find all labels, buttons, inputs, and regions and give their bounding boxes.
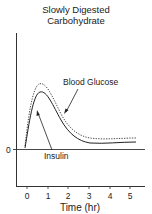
x-tick-label: 4 (108, 191, 113, 201)
blood-glucose-arrow (66, 89, 78, 112)
insulin-arrow (38, 113, 52, 150)
blood-glucose-curve (25, 84, 136, 146)
x-tick-label: 3 (87, 191, 92, 201)
y-tick-zero: 0 (6, 145, 11, 155)
insulin-label: Insulin (44, 151, 69, 161)
x-tick-label: 2 (66, 191, 71, 201)
x-tick-label: 0 (25, 191, 30, 201)
insulin-curve (25, 92, 136, 148)
blood-glucose-label: Blood Glucose (63, 77, 119, 87)
insulin-arrowhead-icon (37, 110, 40, 116)
x-tick-label: 1 (46, 191, 51, 201)
chart-plot: 0 0 1 2 3 4 5 Time (hr) Blood Glucose In… (0, 0, 152, 214)
x-tick-label: 5 (128, 191, 133, 201)
x-axis-label: Time (hr) (60, 202, 100, 213)
